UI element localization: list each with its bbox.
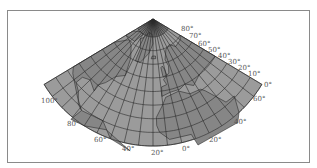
longitude-label: 60° [253, 95, 265, 103]
longitude-label: 20° [209, 136, 221, 144]
longitude-label: 60° [94, 136, 106, 144]
iceland-land [151, 56, 156, 59]
latitude-label: 10° [248, 70, 260, 78]
latitude-label: 0° [264, 81, 272, 89]
longitude-label: 20° [151, 149, 163, 157]
longitude-label: 100° [41, 97, 58, 105]
longitude-label: 80° [67, 120, 79, 128]
longitude-label: 0° [182, 145, 190, 153]
longitude-label: 40° [234, 118, 246, 126]
longitude-label: 40° [122, 145, 134, 153]
conic-map[interactable]: 80°70°60°50°40°30°20°10°0°100°80°60°40°2… [0, 0, 317, 168]
latitude-label: 70° [189, 32, 201, 40]
